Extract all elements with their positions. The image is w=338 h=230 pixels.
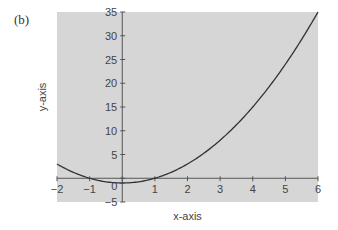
x-tick-label: 4 — [250, 183, 256, 195]
x-tick-label: −1 — [83, 183, 96, 195]
x-tick-label: 1 — [152, 183, 158, 195]
x-tick-label: 3 — [217, 183, 223, 195]
x-tick-label: 5 — [282, 183, 288, 195]
y-tick-label: 10 — [105, 125, 117, 137]
y-tick-label: 30 — [105, 30, 117, 42]
y-tick-label: 25 — [105, 54, 117, 66]
y-axis-title: y-axis — [36, 82, 48, 111]
plot-area — [57, 12, 318, 202]
x-tick-label: 6 — [315, 183, 321, 195]
y-tick-label: 20 — [105, 77, 117, 89]
y-tick-label: 15 — [105, 101, 117, 113]
x-tick-label: 2 — [184, 183, 190, 195]
y-tick-label: 5 — [111, 149, 117, 161]
x-tick-label: −2 — [51, 183, 64, 195]
x-axis-title: x-axis — [173, 210, 202, 222]
y-tick-label: 35 — [105, 6, 117, 18]
line-chart: −2−1123456−505101520253035x-axisy-axis — [0, 0, 338, 230]
y-tick-label: −5 — [105, 196, 118, 208]
